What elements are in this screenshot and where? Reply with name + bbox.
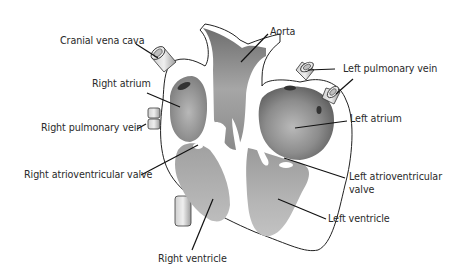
label-left-ventricle: Left ventricle bbox=[328, 213, 390, 225]
leader-left-pulmonary-vein-2 bbox=[336, 79, 353, 94]
label-cranial-vena-cava: Cranial vena cava bbox=[60, 35, 144, 47]
label-right-atrium: Right atrium bbox=[92, 78, 151, 90]
label-right-ventricle: Right ventricle bbox=[158, 253, 227, 265]
heart-diagram: Cranial vena cava Aorta Right atrium Lef… bbox=[0, 0, 452, 278]
label-right-pulmonary-vein: Right pulmonary vein bbox=[41, 122, 142, 134]
label-left-pulmonary-vein: Left pulmonary vein bbox=[343, 63, 437, 75]
label-left-atrioventricular-valve-2: valve bbox=[349, 184, 374, 196]
right-pulmonary-vein-shape bbox=[148, 108, 160, 129]
label-aorta: Aorta bbox=[270, 26, 295, 38]
label-left-atrium: Left atrium bbox=[350, 113, 402, 125]
caudal-vessel bbox=[175, 196, 191, 226]
label-right-atrioventricular-valve: Right atrioventricular valve bbox=[24, 169, 152, 181]
label-left-atrioventricular-valve: Left atrioventricular bbox=[349, 171, 442, 183]
